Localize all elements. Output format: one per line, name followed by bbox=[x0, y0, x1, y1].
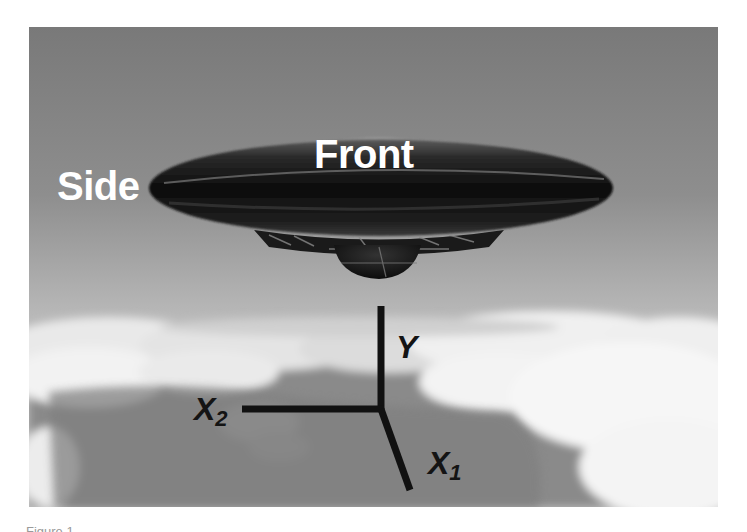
x2-axis-label-text: X bbox=[194, 391, 215, 427]
x1-axis-label-text: X bbox=[428, 445, 449, 481]
x1-axis-label: X1 bbox=[428, 447, 462, 484]
figure-caption: Figure 1 bbox=[26, 524, 326, 532]
x2-axis-label: X2 bbox=[194, 393, 228, 430]
x1-axis-subscript: 1 bbox=[449, 460, 461, 485]
figure-image: Side Front Y X2 X1 bbox=[29, 27, 718, 507]
y-axis-label-text: Y bbox=[396, 329, 417, 365]
x2-axis-subscript: 2 bbox=[215, 406, 227, 431]
scene-illustration bbox=[29, 27, 718, 507]
y-axis-label: Y bbox=[396, 331, 417, 363]
side-label: Side bbox=[57, 166, 139, 206]
front-label: Front bbox=[314, 134, 414, 174]
